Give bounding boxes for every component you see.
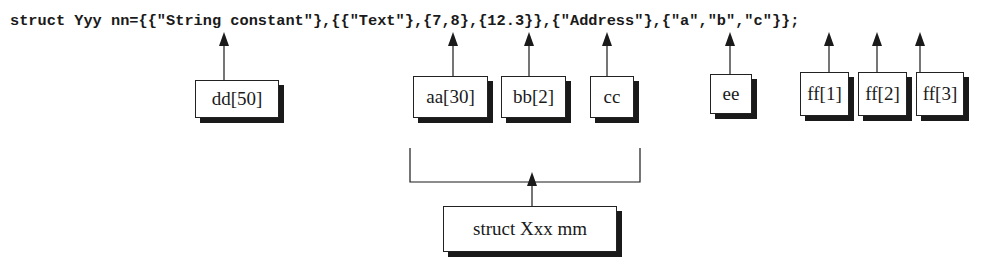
field-box-cc: cc xyxy=(590,76,634,118)
group-bracket xyxy=(410,148,640,182)
field-box-ff2: ff[2] xyxy=(858,72,907,116)
field-box-ff1: ff[1] xyxy=(800,72,849,116)
field-box-bb: bb[2] xyxy=(501,76,566,118)
field-box-dd: dd[50] xyxy=(195,80,279,118)
field-box-aa: aa[30] xyxy=(413,76,488,118)
field-box-ee: ee xyxy=(710,74,752,114)
field-box-ff3: ff[3] xyxy=(916,72,964,116)
struct-xxx-box: struct Xxx mm xyxy=(443,206,617,252)
